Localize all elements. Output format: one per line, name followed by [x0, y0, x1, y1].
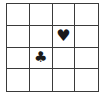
- cell-r4-c4[interactable]: [75, 69, 98, 91]
- cell-r1-c1[interactable]: [7, 4, 30, 26]
- cell-r1-c3[interactable]: [53, 4, 76, 26]
- cell-r1-c2[interactable]: [30, 4, 53, 26]
- cell-r3-c4[interactable]: [75, 48, 98, 70]
- cell-r3-c1[interactable]: [7, 48, 30, 70]
- heart-icon: ♥: [56, 28, 70, 44]
- cell-r2-c3[interactable]: ♥: [53, 26, 76, 48]
- cell-r4-c3[interactable]: [53, 69, 76, 91]
- cell-r2-c2[interactable]: [30, 26, 53, 48]
- cell-r2-c4[interactable]: [75, 26, 98, 48]
- cell-r4-c1[interactable]: [7, 69, 30, 91]
- cell-r2-c1[interactable]: [7, 26, 30, 48]
- cell-r3-c2[interactable]: ♣: [30, 48, 53, 70]
- cell-r1-c4[interactable]: [75, 4, 98, 26]
- cell-r4-c2[interactable]: [30, 69, 53, 91]
- cell-r3-c3[interactable]: [53, 48, 76, 70]
- club-icon: ♣: [34, 50, 47, 65]
- game-board: ♥ ♣: [6, 3, 99, 92]
